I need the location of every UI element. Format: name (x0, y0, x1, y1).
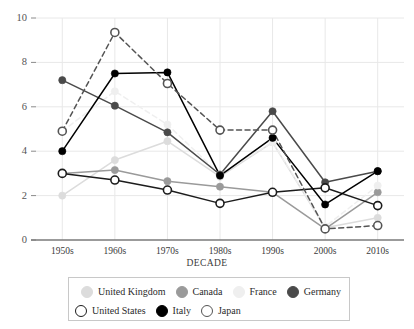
data-point-japan (111, 28, 119, 36)
data-point-united-states (58, 169, 66, 177)
x-tick-label: 2010s (366, 246, 389, 256)
data-point-united-states (269, 188, 277, 196)
data-point-japan (374, 222, 382, 230)
legend-item-france[interactable]: France (233, 286, 277, 298)
data-point-italy (111, 70, 118, 77)
data-point-germany (111, 102, 118, 109)
chart-legend: United KingdomCanadaFranceGermany United… (68, 277, 350, 321)
legend-marker-filled-icon (287, 286, 299, 298)
data-point-france (374, 182, 381, 189)
data-point-japan (269, 126, 277, 134)
data-point-canada (164, 178, 171, 185)
legend-item-germany[interactable]: Germany (287, 286, 341, 298)
x-tick-label: 1990s (261, 246, 284, 256)
data-point-italy (216, 172, 223, 179)
legend-marker-filled-icon (81, 286, 93, 298)
plot-area: 0246810 1950s1960s1970s1980s1990s2000s20… (0, 0, 414, 272)
data-point-japan (58, 127, 66, 135)
legend-item-canada[interactable]: Canada (176, 286, 223, 298)
x-axis-title: DECADE (187, 258, 228, 268)
data-point-united-states (163, 186, 171, 194)
legend-marker-open-icon (201, 305, 213, 317)
legend-row: United StatesItalyJapan (75, 301, 343, 320)
legend-label: Japan (218, 306, 241, 316)
line-chart: 0246810 1950s1960s1970s1980s1990s2000s20… (0, 0, 414, 329)
x-tick-label: 2000s (314, 246, 337, 256)
legend-item-united-states[interactable]: United States (75, 305, 146, 317)
y-tick-label: 2 (22, 190, 27, 201)
data-point-united-kingdom (59, 192, 66, 199)
data-point-canada (216, 183, 223, 190)
legend-label: United States (92, 306, 146, 316)
legend-row: United KingdomCanadaFranceGermany (75, 282, 343, 301)
y-tick-label: 10 (17, 12, 28, 23)
y-tick-label: 0 (22, 234, 27, 245)
legend-marker-open-icon (75, 305, 87, 317)
data-point-italy (374, 168, 381, 175)
data-point-italy (269, 134, 276, 141)
legend-marker-filled-icon (156, 305, 168, 317)
legend-label: France (250, 287, 277, 297)
data-point-italy (322, 201, 329, 208)
legend-label: Germany (304, 287, 341, 297)
data-point-united-kingdom (164, 138, 171, 145)
data-point-italy (164, 69, 171, 76)
x-tick-label: 1950s (51, 246, 74, 256)
data-point-united-states (374, 202, 382, 210)
legend-marker-filled-icon (176, 286, 188, 298)
chart-svg: 0246810 1950s1960s1970s1980s1990s2000s20… (0, 0, 414, 272)
data-point-canada (111, 166, 118, 173)
data-point-germany (269, 108, 276, 115)
x-axis-ticks: 1950s1960s1970s1980s1990s2000s2010s (51, 246, 389, 256)
y-tick-label: 6 (22, 101, 27, 112)
data-point-italy (59, 148, 66, 155)
data-point-japan (321, 225, 329, 233)
legend-item-japan[interactable]: Japan (201, 305, 241, 317)
y-tick-label: 4 (22, 145, 28, 156)
legend-label: Canada (193, 287, 223, 297)
legend-item-italy[interactable]: Italy (156, 305, 191, 317)
data-point-japan (216, 126, 224, 134)
data-point-germany (164, 129, 171, 136)
data-point-germany (59, 77, 66, 84)
data-point-united-states (111, 176, 119, 184)
legend-label: United Kingdom (98, 287, 166, 297)
x-tick-label: 1970s (156, 246, 179, 256)
data-point-united-states (321, 184, 329, 192)
legend-label: Italy (173, 306, 191, 316)
data-point-france (164, 121, 171, 128)
legend-item-united-kingdom[interactable]: United Kingdom (81, 286, 166, 298)
data-point-france (111, 88, 118, 95)
data-point-united-states (216, 199, 224, 207)
x-tick-label: 1980s (209, 246, 232, 256)
data-point-canada (374, 189, 381, 196)
legend-marker-filled-icon (233, 286, 245, 298)
y-tick-label: 8 (22, 56, 27, 67)
data-point-united-kingdom (111, 156, 118, 163)
data-point-united-kingdom (374, 214, 381, 221)
x-tick-label: 1960s (104, 246, 127, 256)
data-point-japan (163, 79, 171, 87)
y-axis-ticks: 0246810 (17, 12, 37, 245)
